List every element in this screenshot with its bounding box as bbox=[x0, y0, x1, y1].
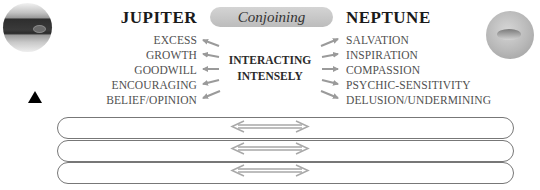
arrow-left-icon bbox=[203, 54, 219, 57]
arrow-left-icon bbox=[203, 40, 219, 46]
double-arrow-icon bbox=[232, 165, 308, 176]
arrow-left-icon bbox=[203, 80, 219, 84]
double-arrow-icon bbox=[232, 143, 308, 154]
arrows-layer bbox=[0, 0, 540, 190]
arrow-right-icon bbox=[321, 91, 338, 98]
arrow-right-icon bbox=[322, 54, 338, 57]
double-arrow-icon bbox=[232, 121, 308, 132]
arrow-left-icon bbox=[203, 91, 220, 98]
arrow-right-icon bbox=[321, 39, 338, 46]
arrow-right-icon bbox=[322, 80, 338, 84]
